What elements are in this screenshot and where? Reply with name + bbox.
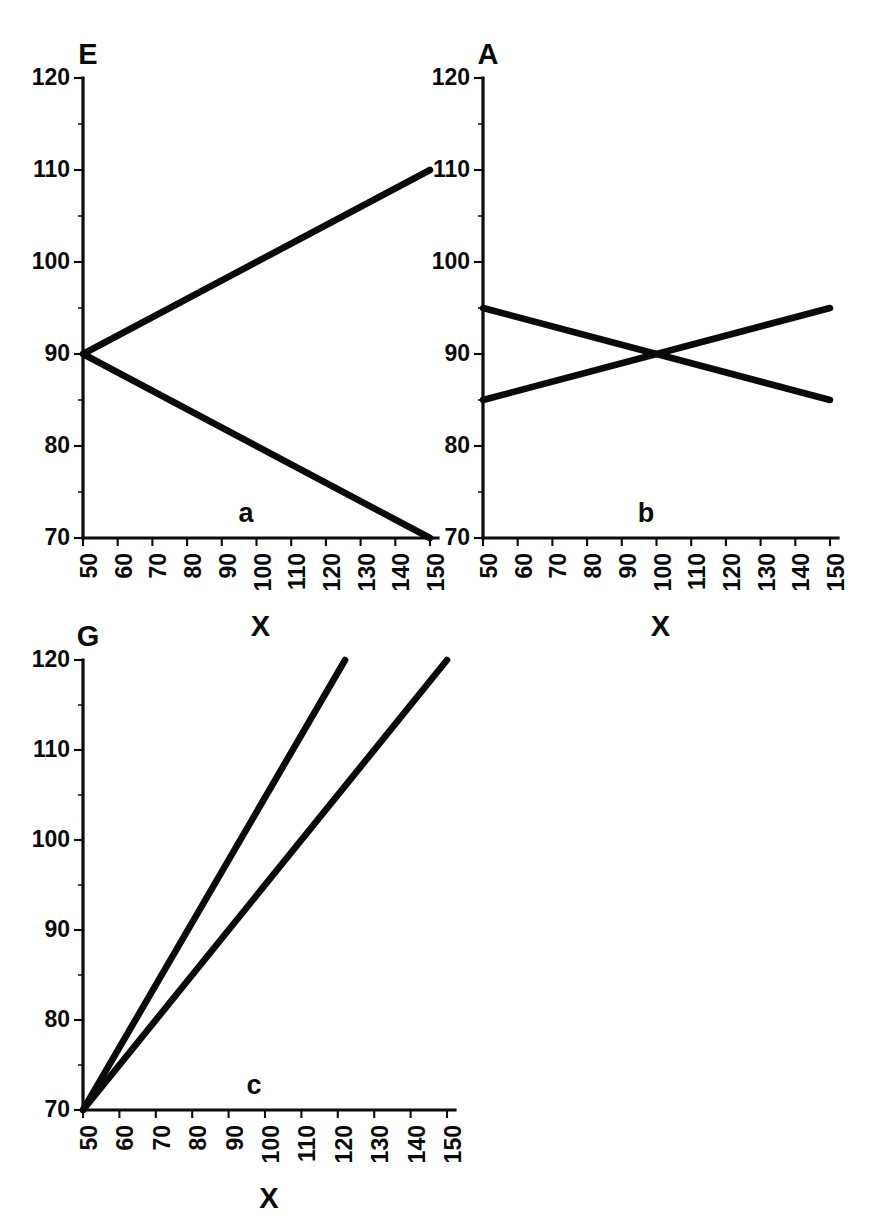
x-tick-label-c-140: 140 — [404, 1125, 430, 1163]
y-tick-label-c-120: 120 — [32, 646, 70, 672]
x-tick-label-a-50: 50 — [76, 553, 102, 579]
x-tick-label-c-100: 100 — [258, 1125, 284, 1163]
x-tick-label-b-70: 70 — [545, 553, 571, 579]
x-tick-label-a-100: 100 — [250, 553, 276, 591]
y-tick-label-a-110: 110 — [33, 156, 70, 182]
data-line-a-lower — [83, 354, 430, 538]
y-tick-label-b-90: 90 — [444, 340, 470, 366]
y-axis-title-b: A — [478, 38, 499, 70]
y-axis-title-a: E — [78, 38, 97, 70]
chart-panel-c: 7080901001101205060708090100110120130140… — [0, 600, 470, 1227]
y-tick-label-b-120: 120 — [432, 64, 470, 90]
chart-panel-b: 7080901001101205060708090100110120130140… — [420, 0, 893, 620]
figure-root: 7080901001101205060708090100110120130140… — [0, 0, 893, 1227]
x-tick-label-c-150: 150 — [440, 1125, 466, 1163]
x-tick-label-b-140: 140 — [788, 553, 814, 591]
x-tick-label-b-50: 50 — [476, 553, 502, 579]
y-tick-label-a-90: 90 — [44, 340, 70, 366]
x-tick-label-b-80: 80 — [580, 553, 606, 579]
y-tick-label-b-100: 100 — [432, 248, 470, 274]
x-tick-label-a-130: 130 — [354, 553, 380, 591]
x-tick-label-b-120: 120 — [719, 553, 745, 591]
x-axis-title-c: X — [259, 1182, 279, 1214]
x-tick-label-c-90: 90 — [222, 1125, 248, 1151]
y-tick-label-c-80: 80 — [44, 1006, 70, 1032]
x-tick-label-a-140: 140 — [388, 553, 414, 591]
x-tick-label-b-130: 130 — [754, 553, 780, 591]
x-tick-label-c-70: 70 — [149, 1125, 175, 1151]
x-tick-label-a-70: 70 — [145, 553, 171, 579]
x-tick-label-b-100: 100 — [650, 553, 676, 591]
x-tick-label-c-120: 120 — [331, 1125, 357, 1163]
x-tick-label-a-90: 90 — [215, 553, 241, 579]
x-tick-label-a-110: 110 — [284, 553, 310, 590]
x-tick-label-b-110: 110 — [684, 553, 710, 590]
chart-svg-a: 7080901001101205060708090100110120130140… — [0, 0, 450, 620]
x-tick-label-c-50: 50 — [76, 1125, 102, 1151]
panel-label-c: c — [247, 1070, 262, 1100]
data-line-a-upper — [83, 170, 430, 354]
y-tick-label-a-100: 100 — [32, 248, 70, 274]
x-tick-label-a-60: 60 — [111, 553, 137, 579]
y-tick-label-a-80: 80 — [44, 432, 70, 458]
x-tick-label-a-120: 120 — [319, 553, 345, 591]
data-line-c-shallow — [83, 660, 447, 1110]
y-tick-label-b-80: 80 — [444, 432, 470, 458]
y-tick-label-a-70: 70 — [44, 524, 70, 550]
y-axis-title-c: G — [77, 620, 100, 652]
x-tick-label-c-130: 130 — [367, 1125, 393, 1163]
y-tick-label-c-90: 90 — [44, 916, 70, 942]
chart-panel-a: 7080901001101205060708090100110120130140… — [0, 0, 450, 620]
x-axis-title-b: X — [651, 610, 671, 642]
x-tick-label-b-90: 90 — [615, 553, 641, 579]
x-tick-label-c-110: 110 — [294, 1125, 320, 1162]
data-line-c-steep — [83, 660, 345, 1110]
y-tick-label-c-100: 100 — [32, 826, 70, 852]
x-tick-label-c-60: 60 — [112, 1125, 138, 1151]
panel-label-a: a — [239, 498, 255, 528]
y-tick-label-b-70: 70 — [444, 524, 470, 550]
panel-label-b: b — [638, 498, 655, 528]
x-tick-label-a-80: 80 — [180, 553, 206, 579]
y-tick-label-a-120: 120 — [32, 64, 70, 90]
chart-svg-b: 7080901001101205060708090100110120130140… — [420, 0, 893, 620]
x-tick-label-b-150: 150 — [823, 553, 849, 591]
y-tick-label-b-110: 110 — [433, 156, 470, 182]
y-tick-label-c-110: 110 — [33, 736, 70, 762]
y-tick-label-c-70: 70 — [44, 1096, 70, 1122]
chart-svg-c: 7080901001101205060708090100110120130140… — [0, 600, 470, 1227]
x-tick-label-c-80: 80 — [185, 1125, 211, 1151]
x-tick-label-b-60: 60 — [511, 553, 537, 579]
